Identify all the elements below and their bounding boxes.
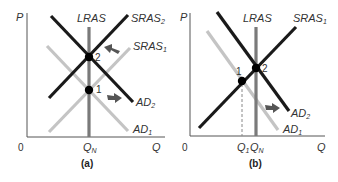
panel-a-ad-shift-arrow-icon <box>107 93 122 103</box>
panel-b-q1-tick-label: Q1 <box>237 141 250 154</box>
panel-b-origin-label: 0 <box>182 142 188 153</box>
panel-a-ad1-label: AD1 <box>132 123 152 136</box>
panel-a-equilibrium-point-1 <box>85 86 93 94</box>
panel-a-caption: (a) <box>81 158 93 169</box>
panel-a-y-axis-label: P <box>16 11 24 23</box>
panel-a-point-1-label: 1 <box>96 84 102 95</box>
panel-b-ad2-label: AD2 <box>290 107 310 120</box>
panel-a-sras-shift-arrow-icon <box>104 44 120 54</box>
panel-a-ad2-label: AD2 <box>135 96 155 109</box>
panel-a-equilibrium-point-2 <box>85 53 93 61</box>
panel-b-caption: (b) <box>249 158 262 169</box>
panel-b-x-axis-label: Q <box>317 141 326 153</box>
panel-b-point-1-label: 1 <box>236 66 242 77</box>
panel-a-x-axis-label: Q <box>152 141 161 153</box>
panel-b-qn-tick-label: QN <box>250 141 265 154</box>
panel-a-sras2-label: SRAS2 <box>131 12 165 25</box>
panel-b: P Q 0 Q1 QN LRAS SRAS1 AD2 AD1 1 2 (b) <box>180 11 327 169</box>
ad-as-diagram: P Q 0 QN LRAS SRAS2 SRAS1 AD2 AD1 2 1 (a… <box>0 0 338 182</box>
panel-b-equilibrium-point-1 <box>238 77 246 85</box>
panel-a: P Q 0 QN LRAS SRAS2 SRAS1 AD2 AD1 2 1 (a… <box>16 11 167 169</box>
panel-b-lras-label: LRAS <box>243 12 272 24</box>
panel-a-sras1-label: SRAS1 <box>133 40 167 53</box>
panel-b-equilibrium-point-2 <box>252 64 260 72</box>
panel-b-y-axis-label: P <box>180 11 188 23</box>
panel-b-sras1-label: SRAS1 <box>293 12 327 25</box>
panel-a-origin-label: 0 <box>18 142 24 153</box>
panel-b-point-2-label: 2 <box>262 63 268 74</box>
panel-a-lras-label: LRAS <box>77 12 106 24</box>
panel-a-qn-tick-label: QN <box>83 141 98 154</box>
panel-b-ad-shift-arrow-icon <box>265 103 280 113</box>
panel-a-point-2-label: 2 <box>95 52 101 63</box>
panel-b-ad1-label: AD1 <box>282 123 302 136</box>
